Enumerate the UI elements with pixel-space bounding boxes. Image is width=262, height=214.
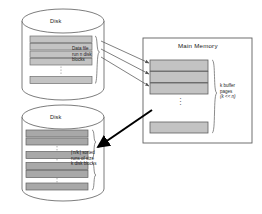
source-disk-label: Disk <box>50 18 61 24</box>
target-annotation-line-1: ⌈n/k⌉ sorted <box>71 150 97 156</box>
diagram-canvas: Disk Disk Main Memory Data file run n di… <box>0 0 262 214</box>
buffer-pages-ellipsis-icon: ⋮ <box>176 98 185 107</box>
target-annotation-line-3: k disk blocks <box>71 161 97 167</box>
buffer-pages-annotation: k buffer pages (k << n) <box>220 83 236 100</box>
source-annotation-line-1: Data file <box>72 46 92 52</box>
buffer-annotation-line-3: (k << n) <box>220 94 236 100</box>
read-arrows <box>101 41 149 86</box>
diagram-graphics <box>0 0 262 214</box>
source-disk-annotation: Data file run n disk blocks <box>72 46 92 63</box>
main-memory-label: Main Memory <box>178 43 218 50</box>
buffer-annotation-line-1: k buffer <box>220 83 236 89</box>
target-disk-label: Disk <box>50 114 61 120</box>
source-annotation-line-3: blocks <box>72 57 92 63</box>
target-disk-annotation: ⌈n/k⌉ sorted runs of size k disk blocks <box>71 150 97 167</box>
